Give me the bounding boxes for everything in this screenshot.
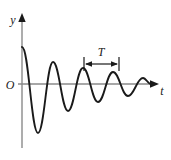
period-dimension-marker: T (84, 45, 119, 71)
period-right-arrowhead-icon (111, 61, 118, 67)
y-axis-label: y (9, 13, 16, 27)
x-axis-label: t (160, 84, 164, 98)
curve-path (22, 47, 151, 133)
damped-oscillation-figure: T y t O (0, 0, 171, 160)
y-axis-arrowhead-icon (18, 13, 25, 22)
y-axis (18, 13, 25, 148)
origin-label: O (6, 78, 15, 92)
period-left-arrowhead-icon (85, 61, 92, 67)
damped-oscillation-curve (22, 47, 151, 133)
period-label: T (98, 45, 106, 59)
